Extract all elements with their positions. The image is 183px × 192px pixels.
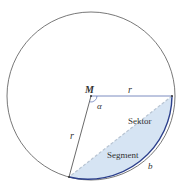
label-angle-alpha: α	[97, 101, 102, 111]
segment-area	[69, 96, 172, 179]
label-center-m: M	[84, 84, 95, 95]
bottom-left-point	[68, 176, 70, 178]
label-radius-top: r	[128, 84, 132, 95]
label-arc-b: b	[148, 161, 153, 171]
center-point	[90, 95, 92, 97]
label-radius-left: r	[70, 130, 74, 141]
circle-diagram: M r r α Sektor Segment b	[0, 0, 183, 192]
label-segment: Segment	[107, 150, 139, 160]
label-sector: Sektor	[128, 116, 152, 126]
right-point	[171, 95, 173, 97]
